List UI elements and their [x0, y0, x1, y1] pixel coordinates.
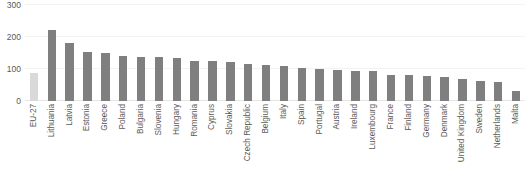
x-tick: Netherlands: [489, 102, 507, 187]
bar[interactable]: [65, 43, 73, 101]
bar[interactable]: [119, 56, 127, 101]
bar-slot[interactable]: [119, 5, 127, 101]
bar-slot[interactable]: [476, 5, 484, 101]
x-tick: Lithuania: [43, 102, 61, 187]
bar-slot[interactable]: [315, 5, 323, 101]
bar[interactable]: [458, 79, 466, 101]
x-tick-label: Spain: [298, 104, 306, 125]
bar-slot[interactable]: [101, 5, 109, 101]
x-tick-label: Netherlands: [494, 104, 502, 148]
x-tick-label: Bulgaria: [137, 104, 145, 134]
x-tick-label: Estonia: [83, 104, 91, 131]
x-tick-label: Austria: [333, 104, 341, 129]
bar[interactable]: [512, 91, 520, 101]
bar[interactable]: [173, 58, 181, 101]
bar-slot[interactable]: [458, 5, 466, 101]
bar-slot[interactable]: [173, 5, 181, 101]
x-tick: Belgium: [257, 102, 275, 187]
bar[interactable]: [494, 82, 502, 101]
bar-slot[interactable]: [298, 5, 306, 101]
x-tick-label: Portugal: [316, 104, 324, 135]
x-tick: Denmark: [436, 102, 454, 187]
bar[interactable]: [83, 52, 91, 101]
x-tick-label: Finland: [405, 104, 413, 131]
bar-slot[interactable]: [190, 5, 198, 101]
bar-slot[interactable]: [333, 5, 341, 101]
bar[interactable]: [190, 61, 198, 101]
bar[interactable]: [30, 73, 38, 101]
x-tick: Estonia: [79, 102, 97, 187]
x-tick-label: Greece: [101, 104, 109, 131]
plot-area: [25, 5, 525, 101]
x-tick-label: Hungary: [173, 104, 181, 135]
bar-slot[interactable]: [226, 5, 234, 101]
y-tick-label: 100: [7, 65, 21, 74]
bar[interactable]: [423, 76, 431, 101]
bar-slot[interactable]: [30, 5, 38, 101]
bar-slot[interactable]: [494, 5, 502, 101]
bar[interactable]: [387, 75, 395, 101]
y-tick-label: 300: [7, 1, 21, 10]
x-tick-label: Slovenia: [155, 104, 163, 135]
x-tick: Czech Republic: [239, 102, 257, 187]
x-tick: Italy: [275, 102, 293, 187]
x-tick-label: Cyprus: [208, 104, 216, 130]
bar[interactable]: [333, 70, 341, 101]
bar[interactable]: [298, 68, 306, 101]
x-tick: Slovenia: [150, 102, 168, 187]
bar[interactable]: [48, 30, 56, 101]
x-tick: Cyprus: [204, 102, 222, 187]
x-tick: Sweden: [471, 102, 489, 187]
bar-slot[interactable]: [262, 5, 270, 101]
bar[interactable]: [208, 61, 216, 101]
x-tick-label: Malta: [512, 104, 520, 124]
bar[interactable]: [440, 77, 448, 101]
x-tick: Portugal: [311, 102, 329, 187]
x-tick: Hungary: [168, 102, 186, 187]
bar-slot[interactable]: [65, 5, 73, 101]
x-tick: Bulgaria: [132, 102, 150, 187]
x-tick-label: Denmark: [441, 104, 449, 137]
x-tick-label: EU-27: [30, 104, 38, 127]
x-tick: Greece: [96, 102, 114, 187]
bar[interactable]: [244, 64, 252, 101]
x-axis: EU-27LithuaniaLatviaEstoniaGreecePolandB…: [25, 102, 525, 187]
x-tick: Romania: [186, 102, 204, 187]
x-tick: EU-27: [25, 102, 43, 187]
bar-slot[interactable]: [387, 5, 395, 101]
bar[interactable]: [476, 81, 484, 101]
x-tick-label: France: [387, 104, 395, 129]
x-tick-label: Germany: [423, 104, 431, 138]
x-tick-label: United Kingdom: [458, 104, 466, 162]
bar-slot[interactable]: [512, 5, 520, 101]
bar-slot[interactable]: [244, 5, 252, 101]
bar-slot[interactable]: [351, 5, 359, 101]
bar[interactable]: [315, 69, 323, 101]
bar-slot[interactable]: [440, 5, 448, 101]
x-tick-label: Lithuania: [48, 104, 56, 137]
x-tick: Luxembourg: [364, 102, 382, 187]
x-tick: Spain: [293, 102, 311, 187]
bar[interactable]: [369, 71, 377, 101]
bar[interactable]: [262, 65, 270, 101]
bar-slot[interactable]: [405, 5, 413, 101]
y-axis: 0100200300: [0, 0, 25, 101]
bar-slot[interactable]: [155, 5, 163, 101]
bar[interactable]: [137, 57, 145, 101]
bar-slot[interactable]: [48, 5, 56, 101]
bar-chart: 0100200300 EU-27LithuaniaLatviaEstoniaGr…: [0, 0, 529, 187]
bar[interactable]: [155, 57, 163, 101]
bar-slot[interactable]: [83, 5, 91, 101]
bar-slot[interactable]: [208, 5, 216, 101]
bar-slot[interactable]: [280, 5, 288, 101]
bar-slot[interactable]: [369, 5, 377, 101]
x-tick: Ireland: [346, 102, 364, 187]
x-tick-label: Czech Republic: [244, 104, 252, 161]
bar[interactable]: [280, 66, 288, 101]
bar-slot[interactable]: [137, 5, 145, 101]
bar[interactable]: [101, 53, 109, 101]
bar-slot[interactable]: [423, 5, 431, 101]
bar[interactable]: [405, 75, 413, 101]
bar[interactable]: [226, 62, 234, 101]
bar[interactable]: [351, 71, 359, 101]
